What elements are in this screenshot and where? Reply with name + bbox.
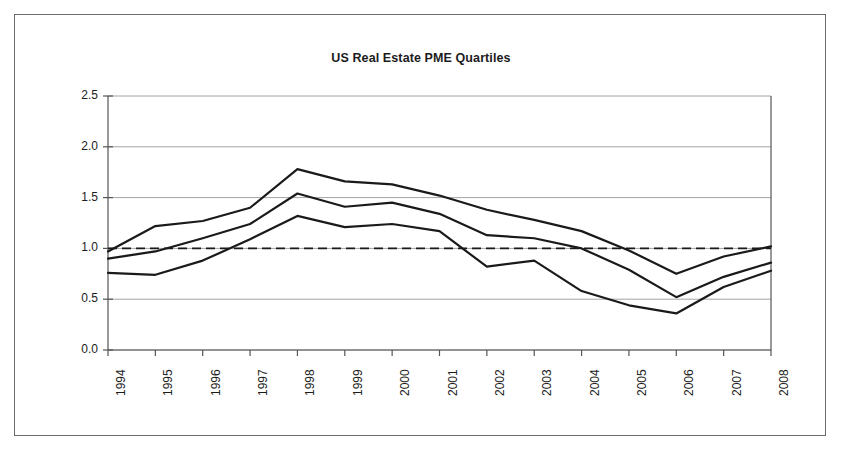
x-tick-label: 1997 xyxy=(256,369,270,396)
y-tick-label: 0.0 xyxy=(58,342,98,356)
x-tick-label: 2001 xyxy=(446,369,460,396)
y-tick-label: 1.5 xyxy=(58,190,98,204)
x-tick-label: 2000 xyxy=(398,369,412,396)
y-tick-label: 2.0 xyxy=(58,139,98,153)
line-chart-plot xyxy=(15,15,827,437)
y-tick-label: 1.0 xyxy=(58,240,98,254)
tick-marks-group xyxy=(103,96,771,356)
x-tick-label: 2006 xyxy=(682,369,696,396)
x-tick-label: 1995 xyxy=(161,369,175,396)
x-tick-label: 1999 xyxy=(351,369,365,396)
x-tick-label: 1996 xyxy=(209,369,223,396)
x-tick-label: 2007 xyxy=(730,369,744,396)
series-line-1 xyxy=(108,194,771,298)
x-tick-label: 2003 xyxy=(540,369,554,396)
x-tick-label: 1994 xyxy=(114,369,128,396)
y-tick-label: 0.5 xyxy=(58,291,98,305)
x-tick-label: 2002 xyxy=(493,369,507,396)
figure-frame: US Real Estate PME Quartiles 0.00.51.01.… xyxy=(14,14,826,436)
y-tick-label: 2.5 xyxy=(58,88,98,102)
data-series-group xyxy=(108,169,771,313)
x-tick-label: 1998 xyxy=(303,369,317,396)
x-tick-label: 2004 xyxy=(588,369,602,396)
x-tick-label: 2008 xyxy=(777,369,791,396)
x-tick-label: 2005 xyxy=(635,369,649,396)
